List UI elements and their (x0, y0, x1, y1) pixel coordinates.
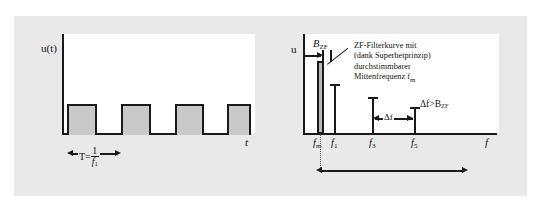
spectral-line-f5 (414, 107, 416, 134)
spectral-line-f1 (334, 84, 336, 134)
time-y-axis-label: u(t) (41, 43, 57, 55)
pulse-2 (121, 104, 151, 135)
period-label: T=1f1 (78, 146, 100, 168)
spectral-line-f1-cap (330, 84, 340, 86)
bandwidth-label: BZF (313, 38, 328, 51)
inequality-left: Δf>B (420, 99, 441, 109)
freq-x-axis (303, 133, 497, 135)
tuning-range-arrow-right-icon (462, 167, 468, 173)
delta-f-label: Δf (383, 113, 394, 122)
spectral-line-f3-cap (368, 97, 378, 99)
bandwidth-measure (305, 55, 339, 57)
pulse-4 (227, 104, 251, 135)
fm-drop-line (320, 134, 322, 170)
tick-label-f1: f1 (331, 137, 337, 150)
period-denominator: f1 (91, 157, 99, 168)
tick-label-f5: f5 (411, 137, 417, 150)
tuning-range-bar (321, 170, 463, 172)
tick-label-f3: f3 (369, 137, 375, 150)
zf-annotation-line-2: (dank Superhetprinzip) (354, 51, 431, 61)
time-x-axis-label: t (245, 137, 248, 149)
freq-y-axis (303, 34, 305, 134)
freq-y-axis-label: u (291, 44, 297, 56)
tuning-range-measure (316, 170, 468, 172)
delta-f-inequality-label: Δf>BZF (420, 100, 449, 110)
freq-x-axis-label: f (485, 137, 488, 149)
spectral-line-f5-cap (410, 107, 420, 109)
zf-annotation-text: ZF-Filterkurve mit (dank Superhetprinzip… (354, 41, 431, 85)
figure-root: u(t) t T=1f1 u f BZF (0, 0, 541, 213)
zf-annotation-line-4: Mittenfrequenz fm (354, 72, 431, 85)
time-y-axis (62, 34, 64, 134)
zf-annotation-line-1: ZF-Filterkurve mit (354, 41, 431, 51)
tuning-range-arrow-left-icon (316, 167, 322, 173)
pulse-1 (67, 104, 97, 135)
zf-annotation-line-3: durchstimmbarer (354, 62, 431, 72)
zf-filter-band (317, 61, 324, 134)
bandwidth-tick-left (322, 50, 324, 62)
inequality-sub: ZF (441, 102, 449, 109)
delta-f-arrow-left-icon (373, 115, 379, 121)
delta-f-arrow-right-icon (407, 115, 413, 121)
period-arrow-left-icon (67, 150, 73, 156)
period-arrow-right-icon (115, 150, 121, 156)
delta-f-measure (372, 118, 416, 120)
period-fraction: 1f1 (91, 146, 99, 168)
period-prefix: T= (79, 151, 91, 162)
pulse-3 (175, 104, 204, 135)
